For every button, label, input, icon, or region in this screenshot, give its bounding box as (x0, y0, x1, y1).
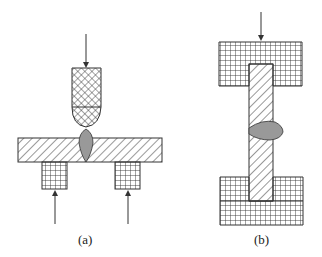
left-support (42, 162, 67, 189)
panel-b-label: (b) (254, 232, 269, 248)
panel-a-label: (a) (78, 232, 92, 248)
electrode (72, 68, 101, 127)
panel-a (18, 34, 162, 224)
panel-b (219, 12, 303, 225)
right-support (115, 162, 140, 189)
diagram-canvas (0, 0, 322, 257)
figure: (a) (b) (0, 0, 322, 257)
